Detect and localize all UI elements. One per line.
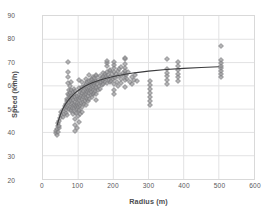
x-tick-label: 100 bbox=[66, 182, 90, 189]
y-axis-title: Speed (km/h) bbox=[10, 35, 19, 155]
scatter-chart-figure: 2030405060708090 0100200300400500600 Rad… bbox=[0, 0, 274, 219]
x-tick-label: 400 bbox=[172, 182, 196, 189]
plot-area bbox=[42, 15, 255, 180]
x-tick-label: 300 bbox=[137, 182, 161, 189]
x-tick-label: 500 bbox=[208, 182, 232, 189]
trendline-path bbox=[57, 67, 219, 126]
x-axis-title: Radius (m) bbox=[42, 197, 255, 206]
y-tick-label: 90 bbox=[0, 12, 15, 19]
x-tick-label: 0 bbox=[30, 182, 54, 189]
x-tick-label: 200 bbox=[101, 182, 125, 189]
y-tick-label: 20 bbox=[0, 177, 15, 184]
trendline-layer bbox=[43, 16, 254, 179]
x-tick-label: 600 bbox=[243, 182, 267, 189]
